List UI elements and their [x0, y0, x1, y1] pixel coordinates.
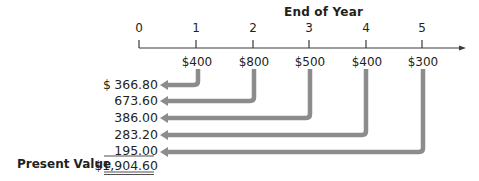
axis-arrowhead-icon [459, 46, 466, 51]
present-value-4: 283.20 [78, 127, 158, 142]
cash-flow-year-1: $400 [172, 55, 222, 69]
present-value-2: 673.60 [78, 93, 158, 108]
present-value-total: $1,904.60 [78, 158, 158, 173]
cash-flow-year-4: $400 [342, 55, 392, 69]
present-value-3: 386.00 [78, 110, 158, 125]
discount-arrows [166, 69, 423, 152]
arrowhead-icons [160, 80, 168, 157]
present-value-1: 366.80 [78, 77, 158, 92]
cash-flow-year-3: $500 [285, 55, 335, 69]
timeline-graphic [0, 0, 479, 181]
cash-flow-year-2: $800 [229, 55, 279, 69]
timeline-axis [139, 40, 463, 48]
present-value-5: 195.00 [78, 143, 158, 158]
cash-flow-year-5: $300 [398, 55, 448, 69]
